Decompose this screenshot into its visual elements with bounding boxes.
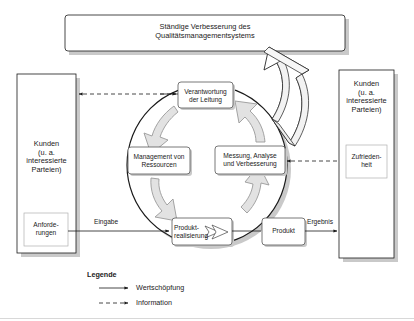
diagram-canvas: [0, 0, 414, 321]
cycle-box-produktrealisierung: [172, 218, 234, 247]
right-interested-parties-box: [339, 70, 394, 258]
iso-process-model-diagram: Ständige Verbesserung des Qualitätsmanag…: [0, 0, 414, 321]
cycle-box-messung-analyse-und-verbesserung: [215, 146, 287, 176]
output-box-produkt: [262, 218, 307, 247]
legend-symbols: [99, 288, 128, 303]
continual-improvement-box: [65, 15, 345, 51]
cycle-box-verantwortung-der-leitung: [178, 82, 235, 110]
left-interested-parties-box: [17, 74, 76, 253]
cycle-box-management-von-ressourcen: [128, 147, 192, 176]
